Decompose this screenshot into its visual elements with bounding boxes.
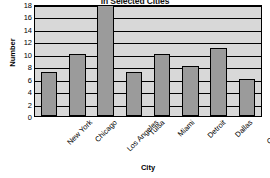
bar[interactable]: [182, 66, 198, 116]
plot-area: [34, 5, 262, 117]
x-tick-label: Chicago: [93, 118, 119, 144]
y-tick-label: 0: [28, 113, 32, 122]
x-axis-ticks: New YorkChicagoLos AngelesTulsaMiamiDetr…: [34, 118, 262, 164]
y-tick-label: 14: [24, 25, 32, 34]
bar-slot: [233, 6, 261, 116]
bar-series: [35, 6, 261, 116]
bar[interactable]: [41, 72, 57, 116]
bar-chart: in Selected Cities Number 02468101214161…: [0, 0, 270, 178]
y-axis-ticks: 024681012141618: [16, 5, 32, 117]
y-tick-label: 4: [28, 88, 32, 97]
bar-slot: [205, 6, 233, 116]
bar[interactable]: [126, 72, 142, 116]
y-tick-label: 16: [24, 13, 32, 22]
bar[interactable]: [210, 48, 226, 116]
bar-slot: [120, 6, 148, 116]
y-tick-label: 6: [28, 75, 32, 84]
bar-slot: [148, 6, 176, 116]
bar[interactable]: [69, 54, 85, 116]
bar-slot: [176, 6, 204, 116]
x-tick-label: Dallas: [233, 118, 254, 139]
y-tick-label: 12: [24, 38, 32, 47]
x-axis-label: City: [34, 163, 262, 172]
y-tick-label: 18: [24, 1, 32, 10]
y-tick-label: 10: [24, 50, 32, 59]
bar[interactable]: [154, 54, 170, 116]
x-tick-label: Miami: [176, 118, 197, 139]
bar-slot: [92, 6, 120, 116]
x-tick-label: Detroit: [205, 118, 227, 140]
bar-slot: [63, 6, 91, 116]
bar[interactable]: [97, 5, 113, 116]
y-tick-label: 2: [28, 100, 32, 109]
y-tick-label: 8: [28, 63, 32, 72]
bar-slot: [35, 6, 63, 116]
x-tick-label: Charlotte: [265, 118, 270, 146]
x-tick-label: New York: [66, 118, 95, 147]
bar[interactable]: [239, 79, 255, 116]
